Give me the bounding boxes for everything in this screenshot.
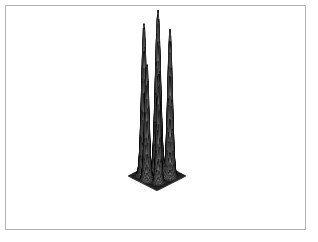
plot-frame: [5, 5, 306, 230]
figure-root: [0, 0, 318, 242]
surface-mesh-plot: [6, 6, 305, 229]
